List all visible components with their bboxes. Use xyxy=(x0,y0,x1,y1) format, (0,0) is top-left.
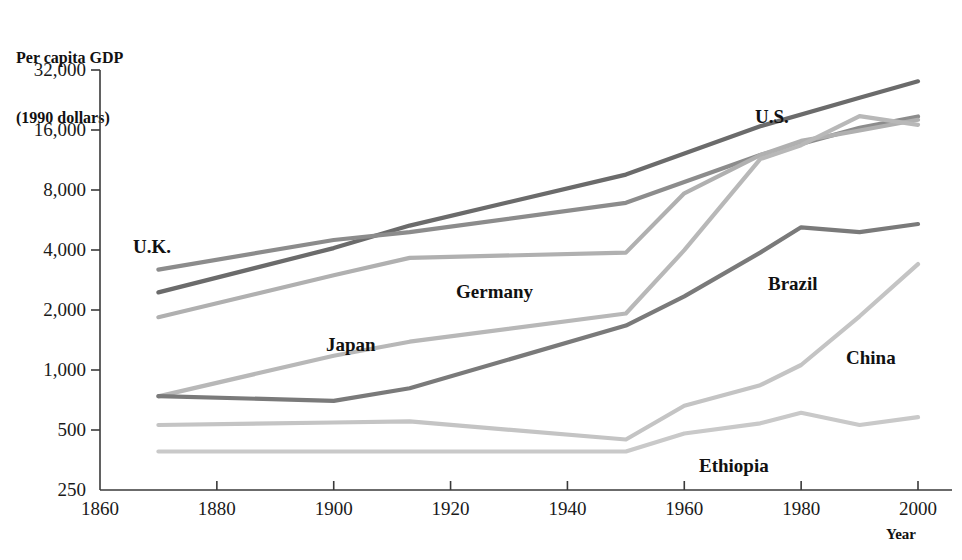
y-tick-label: 4,000 xyxy=(0,239,86,261)
series-label-japan: Japan xyxy=(326,334,376,356)
series-label-germany: Germany xyxy=(456,281,533,303)
x-tick-label: 2000 xyxy=(899,498,937,520)
x-tick-label: 1980 xyxy=(782,498,820,520)
y-tick-label: 16,000 xyxy=(0,119,86,141)
x-tick-label: 1920 xyxy=(432,498,470,520)
series-label-china: China xyxy=(846,347,896,369)
y-tick-label: 2,000 xyxy=(0,299,86,321)
y-tick-label: 250 xyxy=(0,479,86,501)
series-label-us: U.S. xyxy=(755,106,789,128)
x-tick-label: 1900 xyxy=(315,498,353,520)
x-tick-label: 1960 xyxy=(665,498,703,520)
series-label-brazil: Brazil xyxy=(768,273,818,295)
plot-area xyxy=(0,0,962,560)
series-label-uk: U.K. xyxy=(133,236,171,258)
series-label-ethiopia: Ethiopia xyxy=(699,455,769,477)
y-tick-label: 8,000 xyxy=(0,179,86,201)
gdp-line-chart: Per capita GDP (1990 dollars) Year 32,00… xyxy=(0,0,962,560)
x-tick-label: 1940 xyxy=(548,498,586,520)
x-tick-label: 1880 xyxy=(198,498,236,520)
y-tick-label: 500 xyxy=(0,419,86,441)
series-line-us xyxy=(158,81,918,292)
y-tick-label: 32,000 xyxy=(0,59,86,81)
x-tick-label: 1860 xyxy=(81,498,119,520)
y-tick-label: 1,000 xyxy=(0,359,86,381)
